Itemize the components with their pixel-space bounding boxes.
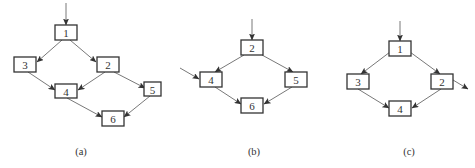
edge-arrow: [361, 52, 390, 74]
node-4: 4: [55, 84, 77, 98]
node-label: 2: [249, 42, 255, 54]
edge-arrow: [114, 72, 145, 88]
edge-arrow: [264, 87, 292, 104]
edge-arrow: [37, 40, 62, 62]
edge-arrow: [67, 98, 102, 117]
node-2: 2: [97, 57, 119, 72]
node-3: 3: [347, 74, 369, 89]
edge-arrow: [70, 40, 96, 62]
node-label: 5: [293, 74, 299, 86]
edge-arrow: [215, 87, 241, 104]
node-3: 3: [14, 57, 36, 72]
panel-caption: (c): [403, 146, 415, 158]
node-1: 1: [389, 41, 411, 56]
edge-arrow: [28, 72, 55, 90]
node-label: 3: [355, 76, 361, 88]
node-label: 3: [22, 59, 28, 71]
panel-b: 2456(b): [180, 19, 307, 158]
edge-arrow: [124, 96, 150, 117]
edge-arrow: [180, 68, 199, 79]
panels: 132456(a)2456(b)1324(c): [14, 3, 468, 158]
node-label: 5: [150, 84, 156, 96]
panel-caption: (b): [248, 146, 261, 158]
node-2: 2: [241, 40, 263, 55]
node-1: 1: [55, 25, 77, 40]
edge-arrow: [262, 55, 293, 72]
node-label: 4: [208, 74, 214, 86]
node-label: 1: [397, 43, 403, 55]
node-label: 4: [63, 86, 69, 98]
edge-arrow: [410, 52, 440, 74]
node-label: 2: [439, 76, 445, 88]
edge-arrow: [358, 89, 389, 108]
node-5: 5: [285, 72, 307, 87]
node-4: 4: [389, 101, 411, 116]
panel-caption: (a): [75, 146, 87, 158]
node-label: 4: [397, 103, 403, 115]
panel-a: 132456(a): [14, 3, 161, 158]
edge-arrow: [215, 55, 244, 72]
edge-arrow: [78, 72, 105, 90]
edge-arrow: [453, 80, 468, 89]
node-6: 6: [241, 98, 263, 113]
control-flow-diagram: 132456(a)2456(b)1324(c): [0, 0, 475, 168]
node-6: 6: [102, 111, 124, 126]
node-label: 2: [105, 59, 111, 71]
node-4: 4: [200, 72, 222, 87]
edge-arrow: [412, 89, 441, 108]
panel-c: 1324(c): [347, 21, 468, 158]
node-label: 6: [249, 100, 255, 112]
node-label: 1: [63, 27, 69, 39]
node-5: 5: [144, 82, 161, 96]
node-2: 2: [431, 74, 453, 89]
node-label: 6: [110, 113, 116, 125]
